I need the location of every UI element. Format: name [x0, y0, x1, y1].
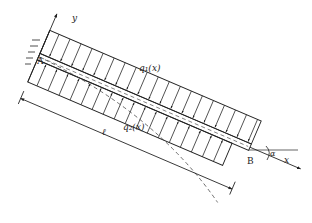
y-axis-label: y: [72, 14, 77, 23]
point-b-label: B: [247, 157, 254, 166]
angle-label: α: [270, 150, 275, 158]
point-a-label: A: [37, 57, 44, 66]
load-q1-label: q₁(x): [139, 64, 160, 73]
load-q2-label: q₂(x): [123, 123, 144, 132]
y-axis-arrow: [38, 14, 57, 58]
top-load-arrows: [50, 34, 258, 141]
length-dimension: [18, 91, 235, 194]
angle-arc: [266, 146, 269, 160]
beam-diagram: [0, 0, 312, 223]
length-label: ℓ: [102, 128, 106, 137]
x-axis-label: x: [284, 156, 289, 165]
beam-assembly: [14, 14, 312, 223]
